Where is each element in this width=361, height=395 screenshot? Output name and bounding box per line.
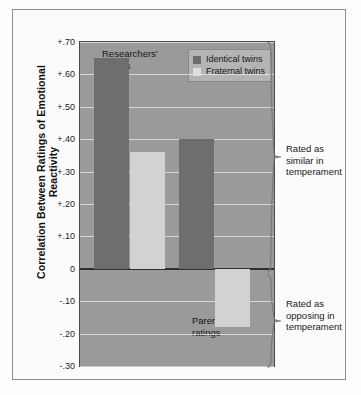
annotation-opposing-line2: opposing in (286, 310, 335, 321)
figure-container: Correlation Between Ratings of Emotional… (0, 0, 361, 395)
y-axis-tick-labels: +.70+.60+.50+.40+.30+.20+.100-.10-.20-.3… (41, 41, 75, 367)
legend-swatch-identical-icon (193, 56, 201, 64)
annotation-similar: Rated as similar in temperament (286, 143, 361, 178)
annotation-opposing-line1: Rated as (286, 298, 324, 309)
gridline (80, 366, 274, 367)
bar-identical-parents (179, 139, 214, 269)
y-axis-tick-label: 0 (43, 265, 75, 274)
annotation-similar-line2: similar in (286, 155, 323, 166)
y-axis-tick-label: +.20 (43, 200, 75, 209)
gridline (80, 334, 274, 335)
y-axis-tick-label: -.10 (43, 297, 75, 306)
y-axis-tick-label: +.30 (43, 168, 75, 177)
annotation-opposing: Rated as opposing in temperament (286, 298, 361, 333)
brace-similar-icon (265, 40, 283, 274)
y-axis-tick-label: +.70 (43, 38, 75, 47)
bar-fraternal-parents (215, 269, 250, 327)
legend-label-identical: Identical twins (206, 55, 263, 64)
gridline (80, 42, 274, 43)
figure-frame: Correlation Between Ratings of Emotional… (12, 9, 346, 380)
y-axis-tick-label: +.60 (43, 70, 75, 79)
brace-opposing-icon (265, 273, 283, 369)
annotation-opposing-line3: temperament (286, 321, 342, 332)
plot-area: Researchers' ratings Parents' ratings Id… (79, 41, 275, 367)
legend-item-identical: Identical twins (193, 54, 265, 65)
y-axis-tick-label: +.10 (43, 232, 75, 241)
y-axis-tick-label: -.20 (43, 330, 75, 339)
annotation-similar-line3: temperament (286, 166, 342, 177)
y-axis-tick-label: +.40 (43, 135, 75, 144)
bar-identical-researchers (94, 58, 129, 269)
legend: Identical twins Fraternal twins (188, 49, 272, 82)
annotation-similar-line1: Rated as (286, 143, 324, 154)
y-axis-tick-label: -.30 (43, 362, 75, 371)
category-label-parents-line2: ratings (192, 327, 221, 338)
bar-fraternal-researchers (130, 152, 165, 269)
y-axis-tick-label: +.50 (43, 103, 75, 112)
